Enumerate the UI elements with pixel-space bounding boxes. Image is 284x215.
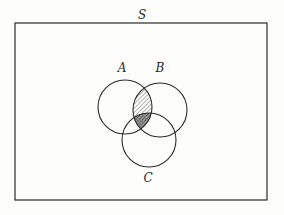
universe-label: S <box>138 9 146 21</box>
venn-diagram <box>0 0 284 215</box>
set-a-label: A <box>118 62 127 74</box>
set-b-label: B <box>156 62 165 74</box>
set-c-circle <box>122 113 176 167</box>
set-c-label: C <box>143 172 152 184</box>
